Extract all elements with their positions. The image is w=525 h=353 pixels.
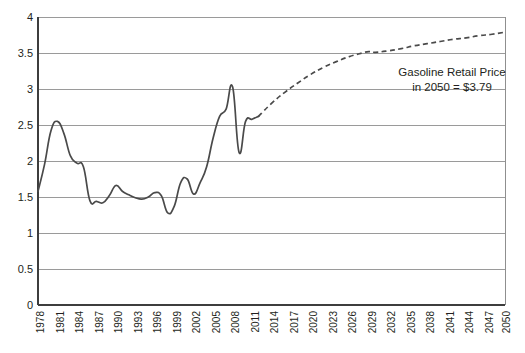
xtick-label-2005: 2005 xyxy=(211,311,222,334)
xtick-label-1990: 1990 xyxy=(113,311,124,334)
ytick-label-4: 4 xyxy=(27,11,33,23)
ytick-label-2: 2 xyxy=(27,155,33,167)
ytick-label-0-5: 0.5 xyxy=(18,263,33,275)
xtick-label-2014: 2014 xyxy=(269,311,280,334)
xtick-label-1987: 1987 xyxy=(94,311,105,334)
xtick-label-2047: 2047 xyxy=(484,311,495,334)
ytick-label-1-5: 1.5 xyxy=(18,191,33,203)
xtick-label-2035: 2035 xyxy=(406,311,417,334)
ytick-label-1: 1 xyxy=(27,227,33,239)
series-line-historical xyxy=(38,85,259,214)
xtick-label-2029: 2029 xyxy=(367,311,378,334)
xtick-label-2026: 2026 xyxy=(347,311,358,334)
xtick-label-2044: 2044 xyxy=(464,311,475,334)
ytick-label-3-5: 3.5 xyxy=(18,47,33,59)
xtick-label-1996: 1996 xyxy=(152,311,163,334)
xtick-label-2023: 2023 xyxy=(328,311,339,334)
xtick-label-2011: 2011 xyxy=(250,311,261,333)
chart-canvas: 4 3.5 3 2.5 2 1.5 1 0.5 0 1978 1981 1984… xyxy=(0,0,525,353)
ytick-label-0: 0 xyxy=(27,299,33,311)
xtick-label-1978: 1978 xyxy=(35,311,46,334)
ytick-label-2-5: 2.5 xyxy=(18,119,33,131)
callout-line-2: in 2050 = $3.79 xyxy=(412,81,492,93)
forecast-callout: Gasoline Retail Price in 2050 = $3.79 xyxy=(398,66,505,93)
xtick-label-2032: 2032 xyxy=(386,311,397,334)
xtick-label-2038: 2038 xyxy=(425,311,436,334)
gridlines-group xyxy=(38,17,505,269)
xtick-label-2002: 2002 xyxy=(191,311,202,334)
x-tick-labels: 1978 1981 1984 1987 1990 1993 1996 1999 … xyxy=(35,311,512,334)
xtick-label-2041: 2041 xyxy=(445,311,456,334)
xtick-label-2020: 2020 xyxy=(308,311,319,334)
xtick-label-1984: 1984 xyxy=(74,311,85,334)
xtick-label-2008: 2008 xyxy=(230,311,241,334)
xtick-label-2050: 2050 xyxy=(501,311,512,334)
gasoline-price-chart: 4 3.5 3 2.5 2 1.5 1 0.5 0 1978 1981 1984… xyxy=(0,0,525,353)
callout-line-1: Gasoline Retail Price xyxy=(398,66,505,78)
xtick-label-1993: 1993 xyxy=(133,311,144,334)
xtick-label-2017: 2017 xyxy=(289,311,300,334)
ytick-label-3: 3 xyxy=(27,83,33,95)
xtick-label-1999: 1999 xyxy=(172,311,183,334)
xtick-label-1981: 1981 xyxy=(55,311,66,334)
y-tick-labels: 4 3.5 3 2.5 2 1.5 1 0.5 0 xyxy=(18,11,33,311)
